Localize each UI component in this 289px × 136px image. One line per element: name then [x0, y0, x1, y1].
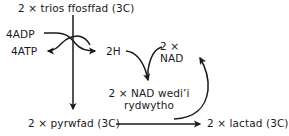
label-reduced-nad: 2 × NAD wedi’i rydwytho [103, 88, 195, 111]
label-nad: 2 × NAD [160, 41, 196, 64]
label-pyruvate: 2 × pyrwfad (3C) [28, 118, 120, 130]
diagram-arrows [0, 0, 289, 136]
label-triose-phosphate: 2 × trios ffosffad (3C) [18, 3, 134, 15]
label-atp: 4ATP [11, 46, 37, 58]
diagram-canvas: 2 × trios ffosffad (3C) 4ADP 4ATP 2H 2 ×… [0, 0, 289, 136]
arrow-hydrogen-to-reduced-nad [126, 51, 148, 80]
arrow-atp-curve-tail [78, 36, 90, 45]
label-lactate: 2 × lactad (3C) [207, 118, 289, 130]
label-adp: 4ADP [6, 29, 35, 41]
label-hydrogen: 2H [106, 46, 121, 58]
